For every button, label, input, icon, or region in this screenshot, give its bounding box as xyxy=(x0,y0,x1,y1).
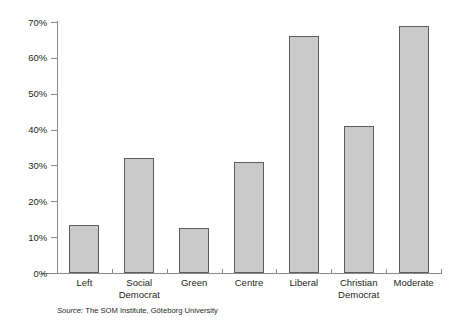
bar xyxy=(179,228,209,273)
x-axis-category-label-line: Democrat xyxy=(100,289,178,301)
bar-slot xyxy=(344,22,374,273)
bar-chart-figure: 0%10%20%30%40%50%60%70% LeftSocialDemocr… xyxy=(0,0,450,323)
bar-series xyxy=(57,22,441,273)
bar-slot xyxy=(234,22,264,273)
bar-slot xyxy=(289,22,319,273)
bar-slot xyxy=(179,22,209,273)
bar xyxy=(289,36,319,273)
bar xyxy=(234,162,264,273)
bar xyxy=(69,225,99,273)
bar-slot xyxy=(69,22,99,273)
y-axis-tick-label: 30% xyxy=(3,161,47,171)
bar xyxy=(399,26,429,273)
y-axis-tick-label: 10% xyxy=(3,233,47,243)
y-axis-tick-label: 0% xyxy=(3,269,47,279)
y-axis-tick-label: 60% xyxy=(3,53,47,63)
y-axis-tick-label: 20% xyxy=(3,197,47,207)
bar xyxy=(344,126,374,273)
y-axis-tick-label: 40% xyxy=(3,125,47,135)
x-axis-tick xyxy=(441,269,442,274)
x-axis-line xyxy=(41,273,441,274)
y-axis-tick-label: 70% xyxy=(3,18,47,28)
source-text: The SOM Institute, Göteborg University xyxy=(85,306,218,315)
x-axis-category-label-line: Moderate xyxy=(375,277,450,289)
bar-slot xyxy=(124,22,154,273)
y-axis-tick-label: 50% xyxy=(3,89,47,99)
source-note: Source: The SOM Institute, Göteborg Univ… xyxy=(57,306,218,315)
bar xyxy=(124,158,154,273)
source-label: Source: xyxy=(57,306,83,315)
x-axis-category-label: Moderate xyxy=(375,277,450,289)
x-axis-category-label-line: Democrat xyxy=(320,289,398,301)
bar-slot xyxy=(399,22,429,273)
